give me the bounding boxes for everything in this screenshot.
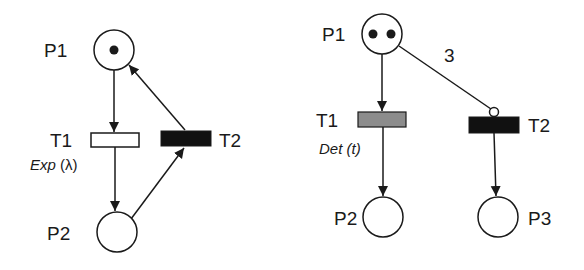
inhibitor-circle-icon (490, 108, 499, 117)
transition-annotation-right-t1: Det (t) (319, 140, 361, 157)
place-left-p1 (94, 30, 134, 70)
transition-annotation-left-t1: Exp (λ) (30, 156, 78, 173)
place-label-left-p1: P1 (44, 40, 67, 61)
token (110, 46, 119, 55)
place-label-right-p3: P3 (528, 208, 551, 229)
right-petri-net: 3 P1 T1 Det (t) T2 P2 P3 (316, 14, 551, 237)
transition-label-left-t1: T1 (50, 130, 72, 151)
arc-multiplicity-label: 3 (444, 45, 455, 66)
transition-label-right-t2: T2 (528, 115, 550, 136)
place-label-right-p1: P1 (322, 24, 345, 45)
transition-left-t2-immediate (161, 131, 211, 146)
transition-right-t2-immediate (469, 117, 519, 133)
transition-label-right-t1: T1 (316, 110, 338, 131)
left-petri-net: P1 T1 Exp (λ) T2 P2 (30, 30, 241, 252)
place-right-p1 (362, 14, 402, 54)
transition-label-left-t2: T2 (219, 130, 241, 151)
place-left-p2 (97, 212, 137, 252)
token (387, 30, 396, 39)
place-right-p3 (478, 197, 518, 237)
transition-right-t1-deterministic (358, 112, 406, 127)
place-label-right-p2: P2 (334, 208, 357, 229)
arc-left-p2-t2 (131, 148, 184, 219)
arc-right-t2-p3 (494, 133, 496, 196)
transition-left-t1-exponential (91, 133, 139, 147)
place-label-left-p2: P2 (47, 223, 70, 244)
token (369, 30, 378, 39)
place-right-p2 (363, 197, 403, 237)
petri-net-figure: P1 T1 Exp (λ) T2 P2 3 P1 T1 Det (t) (0, 0, 584, 270)
arc-left-t2-p1 (129, 65, 185, 130)
